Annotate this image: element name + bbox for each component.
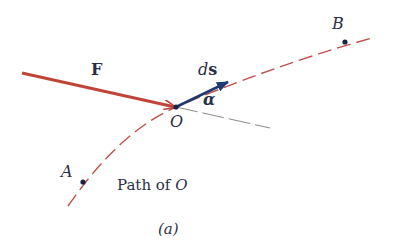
reference-line [176,107,270,128]
path-caption: Path of O [117,178,187,193]
figure-caption: (a) [158,222,179,237]
point-a [80,179,85,184]
point-b [342,39,347,44]
path-caption-point: O [175,176,187,194]
angle-label: α [203,92,215,108]
work-diagram: F ds α O A B Path of O (a) [0,0,404,250]
displacement-label-d: d [198,60,208,79]
point-o [173,104,178,109]
displacement-vector-ds [176,82,228,107]
displacement-label-s: s [208,60,217,79]
force-label: F [91,62,102,78]
diagram-canvas [0,0,404,250]
origin-label: O [170,114,183,130]
path-caption-text: Path of [117,176,175,194]
path-of-o-curve [68,38,372,206]
point-a-label: A [61,164,73,180]
point-b-label: B [332,16,344,32]
displacement-label: ds [198,62,217,78]
